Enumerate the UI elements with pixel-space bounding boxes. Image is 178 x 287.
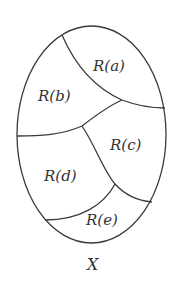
region-b-label: R(b) [37, 87, 71, 105]
region-c-label: R(c) [109, 136, 142, 154]
region-e-label: R(e) [85, 211, 118, 229]
partition-diagram: R(a) R(b) R(c) R(d) R(e) X [0, 0, 178, 287]
set-x-label: X [85, 255, 99, 274]
region-d-label: R(d) [43, 167, 77, 185]
region-a-label: R(a) [92, 57, 125, 75]
boundary-b-cd [17, 100, 122, 136]
